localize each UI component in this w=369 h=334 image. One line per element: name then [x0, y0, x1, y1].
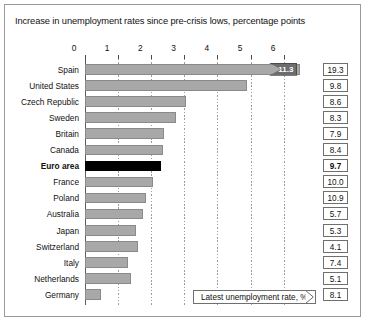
- bar-row: Netherlands5.1: [5, 271, 362, 287]
- legend-label: Latest unemployment rate, %: [193, 290, 316, 304]
- x-axis-tick-label: 6: [259, 43, 280, 53]
- bar: [85, 112, 176, 123]
- bar-row: Australia5.7: [5, 206, 362, 222]
- latest-rate-value-box: 9.8: [323, 79, 348, 92]
- bar: [85, 177, 153, 188]
- bar-row-label: Euro area: [41, 161, 79, 171]
- bar-row: Euro area9.7: [5, 158, 362, 174]
- bar: [85, 145, 163, 156]
- bar: [85, 193, 146, 204]
- bar-row: Spain11.319.3: [5, 62, 362, 78]
- bar-row-label: Switzerland: [36, 242, 79, 252]
- bar: [85, 80, 248, 91]
- bar: [85, 257, 128, 268]
- latest-rate-value-box: 8.4: [323, 143, 348, 156]
- x-axis-tick-label: 1: [93, 43, 114, 53]
- latest-rate-value-box: 10.0: [323, 175, 348, 188]
- bar-row: Britain7.9: [5, 126, 362, 142]
- bar-row: United States9.8: [5, 78, 362, 94]
- bar-row-label: Italy: [64, 258, 79, 268]
- bar-row: Czech Republic8.6: [5, 94, 362, 110]
- latest-rate-value-box: 19.3: [323, 63, 348, 76]
- bar-row-label: Sweden: [49, 113, 79, 123]
- x-axis-tick-label: 4: [193, 43, 214, 53]
- bar-row-label: Canada: [50, 145, 79, 155]
- bar: [85, 128, 165, 139]
- bar-row: Poland10.9: [5, 190, 362, 206]
- bar-row-label: Poland: [53, 193, 79, 203]
- latest-rate-value-box: 5.7: [323, 207, 348, 220]
- latest-rate-value-box: 10.9: [323, 191, 348, 204]
- latest-rate-value-box: 7.4: [323, 256, 348, 269]
- bar-row: Sweden8.3: [5, 110, 362, 126]
- bar: [85, 161, 161, 172]
- plot-area: 0123456 Spain11.319.3United States9.8Cze…: [5, 5, 362, 316]
- bar: [85, 241, 138, 252]
- bar-row-label: Japan: [56, 226, 79, 236]
- bar-row-label: France: [53, 177, 79, 187]
- bar: [85, 225, 136, 236]
- bar-row-label: Netherlands: [34, 274, 79, 284]
- bar-row: France10.0: [5, 174, 362, 190]
- latest-rate-value-box: 8.6: [323, 95, 348, 108]
- latest-rate-value-box: 9.7: [323, 159, 348, 172]
- bar-row-label: Czech Republic: [21, 97, 79, 107]
- x-axis-tick-label: 5: [226, 43, 247, 53]
- latest-rate-value-box: 5.3: [323, 224, 348, 237]
- bar-row: Canada8.4: [5, 142, 362, 158]
- chart-frame: Increase in unemployment rates since pre…: [4, 4, 361, 317]
- bar: [85, 64, 301, 75]
- bar-row: Japan5.3: [5, 223, 362, 239]
- bar-row-label: Britain: [55, 129, 79, 139]
- bar-row-label: Australia: [47, 209, 79, 219]
- bar: [85, 96, 186, 107]
- bar: [85, 209, 143, 220]
- bar-row: Italy7.4: [5, 255, 362, 271]
- latest-rate-value-box: 7.9: [323, 127, 348, 140]
- bar-row: Switzerland4.1: [5, 239, 362, 255]
- bar: [85, 289, 102, 300]
- latest-rate-value-box: 5.1: [323, 272, 348, 285]
- x-axis-tick-label: 3: [160, 43, 181, 53]
- x-axis-tick-label: 2: [126, 43, 147, 53]
- bar-row-label: United States: [29, 81, 79, 91]
- bar-row-label: Spain: [58, 65, 79, 75]
- x-axis-tick-label: 0: [60, 43, 81, 53]
- latest-rate-value-box: 4.1: [323, 240, 348, 253]
- legend-pointer-icon: [305, 290, 314, 304]
- bar: [85, 273, 131, 284]
- latest-rate-value-box: 8.3: [323, 111, 348, 124]
- latest-rate-value-box: 8.1: [323, 288, 348, 301]
- bar-row-label: Germany: [45, 290, 79, 300]
